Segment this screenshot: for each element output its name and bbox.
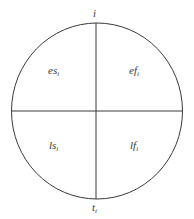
quadrant-bottom-left-label: lsi bbox=[49, 140, 58, 153]
node-diagram bbox=[0, 0, 194, 219]
bottom-label: ti bbox=[92, 202, 97, 215]
top-label-text: i bbox=[93, 7, 96, 19]
es-text: es bbox=[48, 64, 57, 76]
quadrant-top-right-label: efi bbox=[129, 65, 139, 78]
ef-text: ef bbox=[129, 64, 137, 76]
top-label: i bbox=[93, 8, 96, 19]
bottom-label-subscript: i bbox=[95, 207, 97, 215]
lf-subscript: i bbox=[136, 145, 138, 153]
quadrant-top-left-label: esi bbox=[48, 65, 59, 78]
ef-subscript: i bbox=[137, 70, 139, 78]
quadrant-bottom-right-label: lfi bbox=[130, 140, 138, 153]
es-subscript: i bbox=[57, 70, 59, 78]
ls-subscript: i bbox=[56, 145, 58, 153]
